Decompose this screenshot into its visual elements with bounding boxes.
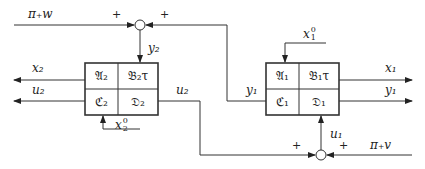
x2-label: x₂ — [32, 62, 44, 74]
block-2-cell-C: ℭ₂ — [85, 96, 118, 108]
block-2-cell-B: 𝔅₂τ — [118, 70, 158, 82]
x1-initial-label: x01 — [303, 26, 316, 42]
u2-right-label: u₂ — [176, 84, 189, 96]
diagram-lines — [0, 0, 425, 169]
input-v-label: π₊v — [370, 139, 391, 151]
block-1-cell-C: ℭ₁ — [266, 96, 299, 108]
bottom-junction-plus-left: + — [292, 140, 301, 151]
bottom-junction-plus-right: + — [339, 140, 348, 151]
y1-right-label: y₁ — [385, 84, 397, 96]
block-1-cell-B: 𝔅₁τ — [299, 70, 339, 82]
x2-initial-label: x02 — [115, 117, 128, 133]
top-junction-plus-left: + — [112, 9, 121, 20]
x1-label: x₁ — [385, 62, 397, 74]
y1-left-label: y₁ — [246, 84, 258, 96]
y2-label: y₂ — [148, 42, 160, 54]
top-junction-plus-right: + — [160, 9, 169, 20]
u2-left-label: u₂ — [32, 84, 45, 96]
input-w-label: π₊w — [28, 8, 53, 20]
block-1-cell-D: 𝔇₁ — [299, 96, 339, 108]
block-diagram: 𝔄₂ 𝔅₂τ ℭ₂ 𝔇₂ 𝔄₁ 𝔅₁τ ℭ₁ 𝔇₁ π₊w + + y₂ x₂ … — [0, 0, 425, 169]
block-1-cell-A: 𝔄₁ — [266, 70, 299, 82]
block-2-cell-A: 𝔄₂ — [85, 70, 118, 82]
block-2-cell-D: 𝔇₂ — [118, 96, 158, 108]
